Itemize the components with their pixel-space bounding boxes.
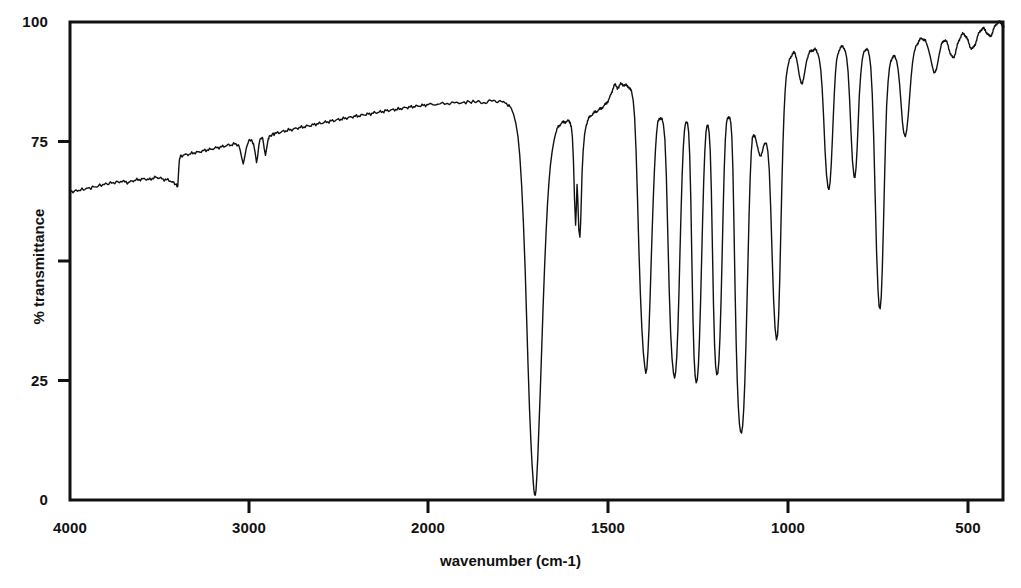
y-tick-label: 0: [0, 491, 48, 508]
x-tick-label: 500: [923, 519, 1013, 536]
x-tick-label: 3000: [204, 519, 294, 536]
y-axis-ticks: [58, 142, 70, 381]
x-axis-title: wavenumber (cm-1): [0, 552, 1021, 569]
x-tick-label: 1500: [563, 519, 653, 536]
y-axis-title: % transmittance: [30, 167, 47, 367]
spectrum-plot: [0, 0, 1021, 588]
plot-frame: [70, 22, 1003, 500]
x-tick-label: 2000: [383, 519, 473, 536]
y-tick-label: 100: [0, 13, 48, 30]
x-tick-label: 4000: [25, 519, 115, 536]
ir-spectrum-figure: 10075250 40003000200015001000500 wavenum…: [0, 0, 1021, 588]
x-tick-label: 1000: [743, 519, 833, 536]
y-tick-label: 75: [0, 133, 48, 150]
y-tick-label: 25: [0, 372, 48, 389]
x-axis-ticks: [249, 500, 968, 513]
spectrum-trace: [70, 21, 1004, 495]
